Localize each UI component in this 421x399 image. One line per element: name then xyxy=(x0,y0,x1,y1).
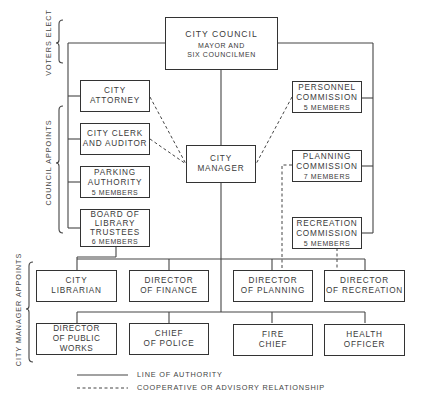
box-line: AND AUDITOR xyxy=(83,139,148,149)
box-line: DIRECTOR xyxy=(53,324,100,334)
library-board-box: BOARD OF LIBRARY TRUSTEES 6 MEMBERS xyxy=(80,209,150,247)
personnel-commission-box: PERSONNEL COMMISSION 5 MEMBERS xyxy=(292,81,362,113)
box-line: COMMISSION xyxy=(296,229,358,239)
box-line: LIBRARIAN xyxy=(51,286,101,296)
city-council-box: CITY COUNCIL MAYOR AND SIX COUNCILMEN xyxy=(165,17,278,70)
box-line: OF PUBLIC WORKS xyxy=(37,334,116,354)
box-line: CITY xyxy=(104,86,126,96)
city-attorney-box: CITY ATTORNEY xyxy=(80,80,150,112)
box-line: PARKING xyxy=(94,168,136,178)
fire-chief-box: FIRE CHIEF xyxy=(233,324,313,356)
city-council-title: CITY COUNCIL xyxy=(185,29,257,39)
box-line: PLANNING xyxy=(303,152,351,162)
director-finance-box: DIRECTOR OF FINANCE xyxy=(129,270,209,302)
city-librarian-box: CITY LIBRARIAN xyxy=(36,270,117,302)
director-planning-box: DIRECTOR OF PLANNING xyxy=(233,270,313,302)
city-council-line1: MAYOR AND xyxy=(198,41,245,50)
recreation-commission-box: RECREATION COMMISSION 5 MEMBERS xyxy=(292,217,362,249)
legend-dashed-label: COOPERATIVE OR ADVISORY RELATIONSHIP xyxy=(137,383,325,392)
box-line: BOARD OF xyxy=(90,210,139,219)
voters-elect-label: VOTERS ELECT xyxy=(44,8,53,78)
box-line: HEALTH xyxy=(346,330,383,340)
box-line: COMMISSION xyxy=(296,93,358,103)
box-line: OF PLANNING xyxy=(241,286,305,296)
box-line: CITY CLERK xyxy=(87,129,143,139)
box-line: AUTHORITY xyxy=(88,178,143,188)
planning-commission-box: PLANNING COMMISSION 7 MEMBERS xyxy=(292,150,362,182)
box-line: OF POLICE xyxy=(144,339,195,349)
box-line: OFFICER xyxy=(344,340,386,350)
box-line: 6 MEMBERS xyxy=(92,237,139,246)
director-public-works-box: DIRECTOR OF PUBLIC WORKS xyxy=(36,323,117,355)
city-manager-box: CITY MANAGER xyxy=(186,145,256,183)
box-line: TRUSTEES xyxy=(90,228,140,237)
box-line: DIRECTOR xyxy=(248,276,297,286)
box-line: PERSONNEL xyxy=(298,83,356,93)
council-appoints-label: COUNCIL APPOINTS xyxy=(44,118,53,208)
box-line: 5 MEMBERS xyxy=(304,103,351,112)
box-line: MANAGER xyxy=(198,164,245,174)
box-line: OF FINANCE xyxy=(140,286,198,296)
chief-police-box: CHIEF OF POLICE xyxy=(129,323,209,355)
box-line: 5 MEMBERS xyxy=(92,188,139,197)
box-line: FIRE xyxy=(262,330,284,340)
box-line: LIBRARY xyxy=(95,219,136,228)
box-line: COMMISSION xyxy=(296,162,358,172)
box-line: CITY xyxy=(210,154,232,164)
box-line: 5 MEMBERS xyxy=(304,239,351,248)
box-line: RECREATION xyxy=(296,219,357,229)
health-officer-box: HEALTH OFFICER xyxy=(324,324,405,356)
legend-solid-label: LINE OF AUTHORITY xyxy=(137,370,223,379)
box-line: 7 MEMBERS xyxy=(304,172,351,181)
box-line: CHIEF xyxy=(259,340,288,350)
box-line: DIRECTOR xyxy=(144,276,193,286)
director-recreation-box: DIRECTOR OF RECREATION xyxy=(324,270,405,302)
box-line: CITY xyxy=(66,276,88,286)
box-line: DIRECTOR xyxy=(340,276,389,286)
parking-authority-box: PARKING AUTHORITY 5 MEMBERS xyxy=(80,166,150,198)
city-manager-appoints-label: CITY MANAGER APPOINTS xyxy=(14,245,23,375)
box-line: CHIEF xyxy=(155,329,184,339)
box-line: OF RECREATION xyxy=(326,286,403,296)
box-line: ATTORNEY xyxy=(90,96,140,106)
city-clerk-box: CITY CLERK AND AUDITOR xyxy=(80,123,150,155)
city-council-line2: SIX COUNCILMEN xyxy=(187,50,256,59)
